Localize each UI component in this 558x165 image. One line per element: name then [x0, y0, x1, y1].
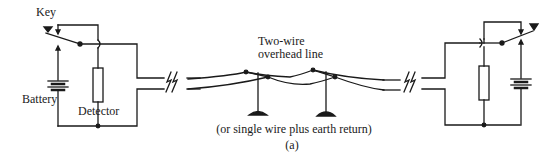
right-battery-icon — [511, 79, 531, 88]
figure-caption: (a) — [272, 139, 312, 152]
left-detector-icon — [93, 68, 103, 102]
right-station — [422, 22, 538, 127]
right-line-break-icon — [383, 72, 415, 92]
left-battery-icon — [48, 81, 68, 90]
overhead-line — [188, 68, 384, 116]
pole-2-icon — [311, 68, 337, 116]
line-title-2: overhead line — [258, 48, 323, 61]
right-detector-icon — [479, 66, 489, 100]
pole-1-icon — [244, 70, 270, 115]
left-key-switch-icon — [44, 25, 82, 50]
right-key-switch-icon — [500, 24, 538, 45]
detector-label: Detector — [78, 105, 119, 118]
earth-return-note: (or single wire plus earth return) — [214, 123, 374, 136]
key-label: Key — [36, 6, 56, 19]
battery-label: Battery — [22, 93, 57, 106]
